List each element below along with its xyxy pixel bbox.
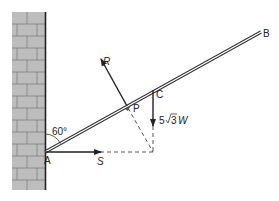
diagram-canvas: 60° A B C P R S 5 3 W (0, 0, 279, 201)
brick-wall (12, 12, 46, 190)
svg-text:W: W (178, 115, 189, 126)
label-r: R (103, 56, 110, 67)
svg-text:5: 5 (159, 115, 165, 126)
angle-label: 60° (52, 126, 67, 137)
label-a: A (44, 155, 51, 166)
label-b: B (263, 28, 270, 39)
label-c: C (156, 89, 163, 100)
construction-lines (100, 108, 153, 152)
label-p: P (133, 103, 140, 114)
weight-label: 5 3 W (159, 114, 189, 126)
label-s: S (97, 156, 104, 167)
svg-text:3: 3 (171, 115, 177, 126)
